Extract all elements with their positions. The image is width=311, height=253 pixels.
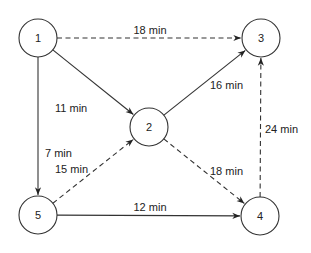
edge-label-2-to-3: 16 min	[210, 79, 243, 91]
node-5: 5	[19, 196, 57, 234]
node-label: 3	[258, 32, 264, 44]
node-label: 4	[257, 210, 263, 222]
edge-line	[57, 215, 240, 216]
edge-label-1-to-5: 7 min	[45, 147, 72, 159]
node-2: 2	[130, 108, 168, 146]
edge-line	[260, 58, 261, 197]
edge-label-1-to-2: 11 min	[55, 102, 87, 114]
node-label: 5	[35, 209, 41, 221]
node-3: 3	[242, 19, 280, 57]
edge-label-1-to-3: 18 min	[133, 24, 166, 36]
edge-label-2-to-4: 18 min	[210, 165, 243, 177]
node-label: 2	[146, 121, 152, 133]
network-diagram: 18 min11 min7 min16 min18 min15 min12 mi…	[0, 0, 311, 253]
node-4: 4	[241, 197, 279, 235]
edge-label-5-to-2: 15 min	[55, 163, 88, 175]
node-label: 1	[35, 32, 41, 44]
node-1: 1	[19, 19, 57, 57]
edge-4-to-3	[260, 58, 261, 197]
edge-5-to-4	[57, 215, 240, 216]
edge-label-5-to-4: 12 min	[133, 201, 166, 213]
edge-label-4-to-3: 24 min	[265, 123, 298, 135]
